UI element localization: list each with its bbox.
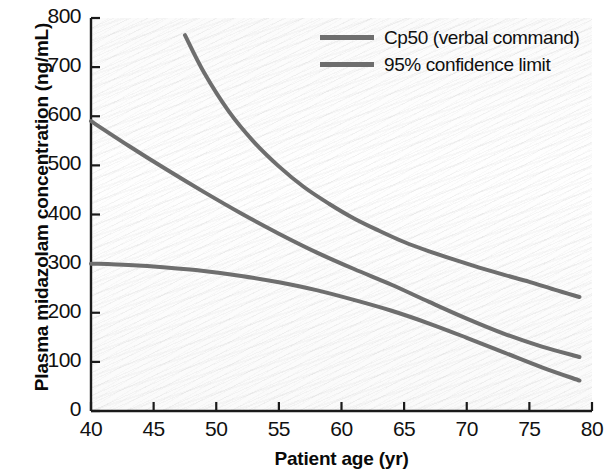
y-axis-title: Plasma midazolam concentration (ng/mL)	[31, 0, 53, 417]
legend-item-cp50: Cp50 (verbal command)	[320, 24, 592, 51]
chart-legend: Cp50 (verbal command) 95% confidence lim…	[320, 24, 592, 78]
x-tick-label: 40	[66, 417, 116, 441]
x-tick-label: 70	[442, 417, 492, 441]
x-tick-label: 60	[317, 417, 367, 441]
legend-item-confidence-limit: 95% confidence limit	[320, 51, 592, 78]
data-series-line	[91, 264, 579, 381]
x-tick-marks	[91, 402, 592, 411]
x-tick-label: 75	[504, 417, 554, 441]
x-tick-label: 50	[191, 417, 241, 441]
legend-label-cp50: Cp50 (verbal command)	[384, 27, 579, 49]
legend-label-confidence-limit: 95% confidence limit	[384, 54, 550, 76]
legend-line-swatch-confidence-limit	[320, 62, 374, 67]
x-axis-title: Patient age (yr)	[91, 448, 592, 470]
x-tick-label: 45	[129, 417, 179, 441]
x-tick-label: 55	[254, 417, 304, 441]
x-tick-label: 80	[567, 417, 608, 441]
data-series-line	[91, 121, 579, 357]
x-tick-label: 65	[379, 417, 429, 441]
legend-line-swatch-cp50	[320, 35, 374, 40]
data-series-group	[91, 35, 579, 380]
y-tick-marks	[91, 18, 100, 411]
